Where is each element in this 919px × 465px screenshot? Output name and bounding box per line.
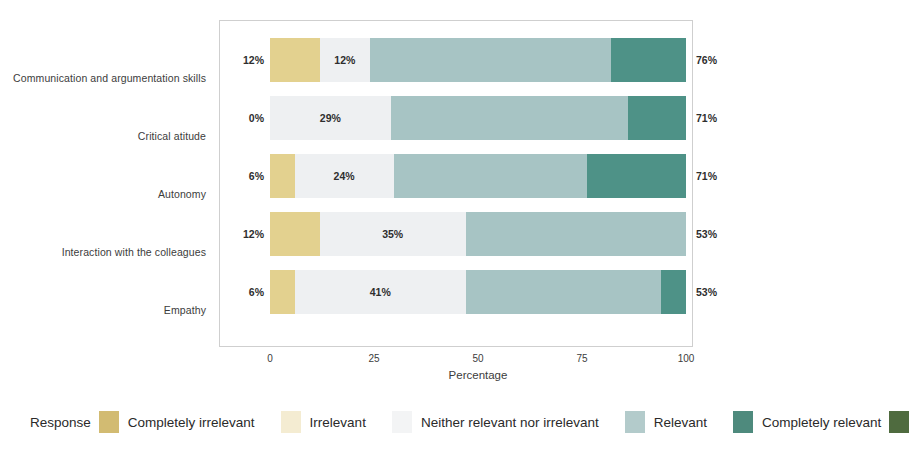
legend-item-label: Completely irrelevant (128, 415, 255, 430)
category-label-1: Critical atitude (138, 130, 206, 142)
x-tick-0: 0 (267, 353, 273, 364)
legend-item[interactable]: Neither relevant nor irrelevant (392, 411, 599, 433)
legend-item-label: Completely relevant (762, 415, 881, 430)
legend-item-label: Relevant (654, 415, 707, 430)
x-axis-title: Percentage (449, 369, 508, 381)
legend-item[interactable]: Irrelevant (281, 411, 366, 433)
legend-swatch-icon (625, 411, 645, 433)
x-tick-100: 100 (678, 353, 695, 364)
category-label-2: Autonomy (158, 188, 206, 200)
category-label-3: Interaction with the colleagues (62, 246, 206, 258)
x-axis: 0 25 50 75 100 Percentage (270, 349, 686, 379)
legend-swatch-icon (392, 411, 412, 433)
category-label-0: Communication and argumentation skills (13, 72, 206, 84)
x-tick-75: 75 (576, 353, 587, 364)
legend-item-label: Irrelevant (310, 415, 366, 430)
x-tick-25: 25 (368, 353, 379, 364)
legend-item-label: Neither relevant nor irrelevant (421, 415, 599, 430)
plot-area-frame (219, 20, 693, 347)
legend-swatch-icon (281, 411, 301, 433)
bar-right-total-label: 71% (696, 170, 717, 182)
category-label-4: Empathy (164, 304, 206, 316)
legend-item[interactable]: Completely relevant (733, 411, 909, 433)
legend-title: Response (30, 415, 91, 430)
legend-swatch-icon (889, 411, 909, 433)
bar-right-total-label: 53% (696, 286, 717, 298)
x-tick-50: 50 (472, 353, 483, 364)
bar-right-total-label: 53% (696, 228, 717, 240)
bar-right-total-label: 76% (696, 54, 717, 66)
chart-container: Communication and argumentation skills C… (0, 0, 919, 465)
category-axis-labels: Communication and argumentation skills C… (0, 20, 212, 347)
legend-swatch-icon (733, 411, 753, 433)
legend-swatch-icon (99, 411, 119, 433)
bar-right-total-label: 71% (696, 112, 717, 124)
legend-items: Completely irrelevantIrrelevantNeither r… (99, 411, 919, 433)
legend: Response Completely irrelevantIrrelevant… (30, 405, 890, 439)
legend-item[interactable]: Completely irrelevant (99, 411, 255, 433)
legend-item[interactable]: Relevant (625, 411, 707, 433)
